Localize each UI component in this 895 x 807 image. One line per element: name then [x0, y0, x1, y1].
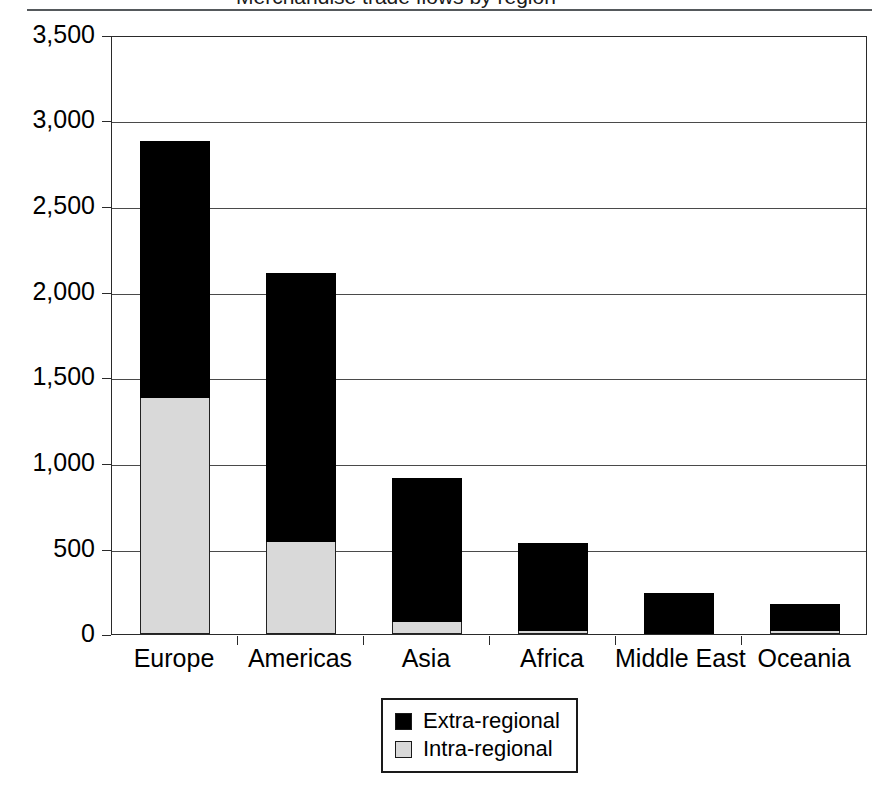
y-axis-tick-label: 3,000: [32, 105, 95, 134]
stacked-bar-oceania[interactable]: [770, 604, 840, 634]
stacked-bar-europe[interactable]: [140, 141, 210, 634]
y-axis-tick-mark: [102, 121, 111, 122]
stacked-bar-africa[interactable]: [518, 543, 588, 634]
bar-segment-intra-regional[interactable]: [770, 631, 840, 634]
plot-area: [111, 36, 867, 635]
y-axis-tick-mark: [102, 36, 111, 37]
x-axis-label-oceania: Oceania: [741, 644, 867, 673]
y-axis-tick-label: 3,500: [32, 20, 95, 49]
legend-item-intra-regional[interactable]: Intra-regional: [395, 735, 560, 763]
chart-legend: Extra-regional Intra-regional: [381, 698, 578, 773]
bar-segment-intra-regional[interactable]: [266, 542, 336, 634]
legend-swatch-intra-regional-icon: [395, 741, 412, 758]
stacked-bar-asia[interactable]: [392, 478, 462, 634]
bar-segment-intra-regional[interactable]: [392, 622, 462, 634]
bar-slot-europe: [112, 37, 238, 634]
x-axis-label-africa: Africa: [489, 644, 615, 673]
legend-label-intra-regional: Intra-regional: [423, 736, 553, 762]
x-axis-label-americas: Americas: [237, 644, 363, 673]
bar-segment-intra-regional[interactable]: [518, 631, 588, 634]
y-axis-tick-mark: [102, 635, 111, 636]
stacked-bar-americas[interactable]: [266, 273, 336, 634]
y-axis-tick-label: 1,500: [32, 362, 95, 391]
y-axis-tick-label: 2,500: [32, 191, 95, 220]
bar-slot-oceania: [742, 37, 868, 634]
y-axis-tick-label: 2,000: [32, 277, 95, 306]
y-axis-tick-mark: [102, 464, 111, 465]
bar-segment-extra-regional[interactable]: [518, 543, 588, 631]
bar-segment-intra-regional[interactable]: [140, 398, 210, 634]
y-axis-tick-mark: [102, 293, 111, 294]
x-axis-label-middle-east: Middle East: [615, 644, 741, 673]
bar-segment-extra-regional[interactable]: [392, 478, 462, 622]
bar-slot-middle-east: [616, 37, 742, 634]
y-axis-tick-mark: [102, 378, 111, 379]
legend-swatch-extra-regional-icon: [395, 713, 412, 730]
bar-slot-asia: [364, 37, 490, 634]
y-axis-tick-mark: [102, 207, 111, 208]
x-axis-label-europe: Europe: [111, 644, 237, 673]
legend-item-extra-regional[interactable]: Extra-regional: [395, 707, 560, 735]
y-axis-tick-mark: [102, 550, 111, 551]
bar-slot-americas: [238, 37, 364, 634]
bar-chart-figure: 3,500 3,000 2,500 2,000 1,500 1,000 500 …: [0, 0, 895, 807]
y-axis-tick-label: 1,000: [32, 448, 95, 477]
stacked-bar-middle-east[interactable]: [644, 593, 714, 634]
bar-segment-extra-regional[interactable]: [644, 593, 714, 634]
bar-segment-extra-regional[interactable]: [266, 273, 336, 542]
y-axis-tick-label: 500: [53, 534, 95, 563]
legend-label-extra-regional: Extra-regional: [423, 708, 560, 734]
x-axis-label-asia: Asia: [363, 644, 489, 673]
bar-slot-africa: [490, 37, 616, 634]
bar-segment-extra-regional[interactable]: [770, 604, 840, 631]
bar-segment-extra-regional[interactable]: [140, 141, 210, 398]
y-axis-tick-label: 0: [81, 619, 95, 648]
